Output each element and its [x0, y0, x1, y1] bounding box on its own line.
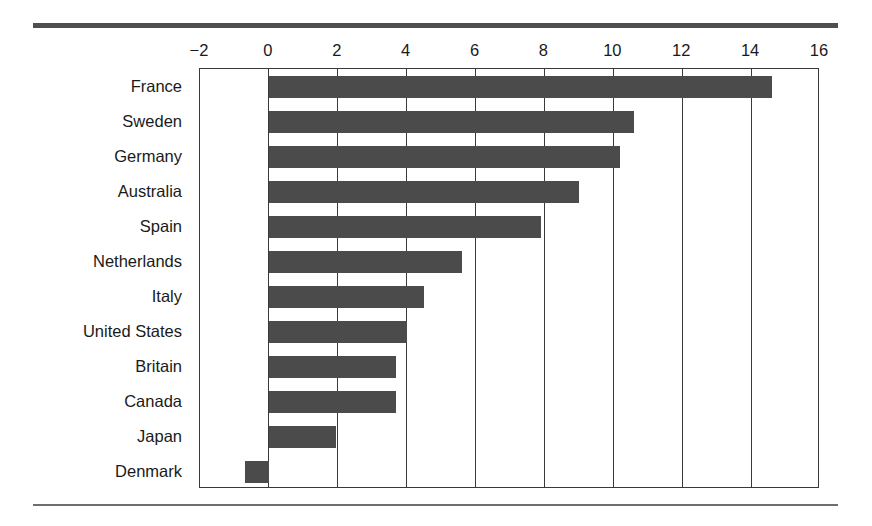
- bar: [269, 111, 634, 133]
- y-tick-label: Italy: [152, 285, 182, 307]
- x-tick-label: 8: [539, 38, 548, 62]
- y-tick-label: Britain: [135, 355, 182, 377]
- x-tick-label: 2: [332, 38, 341, 62]
- x-tick-label: 4: [401, 38, 410, 62]
- bar: [269, 181, 579, 203]
- bars-layer: [200, 69, 818, 487]
- y-tick-label: Australia: [118, 180, 182, 202]
- bar: [269, 426, 336, 448]
- bar: [245, 461, 269, 483]
- x-tick-label: 6: [470, 38, 479, 62]
- x-tick-label: 16: [810, 38, 828, 62]
- x-axis-tick-labels: −20246810121416: [199, 38, 819, 62]
- y-tick-label: Japan: [137, 425, 182, 447]
- y-tick-label: Germany: [114, 145, 182, 167]
- bar: [269, 391, 396, 413]
- x-tick-label: −2: [190, 38, 209, 62]
- bar: [269, 321, 407, 343]
- bar: [269, 146, 620, 168]
- bar: [269, 286, 424, 308]
- bar: [269, 76, 772, 98]
- bar: [269, 251, 462, 273]
- y-tick-label: Sweden: [122, 110, 182, 132]
- y-tick-label: United States: [83, 320, 182, 342]
- plot-area: [199, 68, 819, 488]
- y-tick-label: Denmark: [115, 460, 182, 482]
- y-tick-label: Netherlands: [93, 250, 182, 272]
- bar-chart-figure: −20246810121416 FranceSwedenGermanyAustr…: [0, 0, 872, 526]
- bar: [269, 216, 541, 238]
- x-tick-label: 0: [263, 38, 272, 62]
- x-tick-label: 12: [672, 38, 690, 62]
- bar: [269, 356, 396, 378]
- y-axis-category-labels: FranceSwedenGermanyAustraliaSpainNetherl…: [0, 68, 190, 488]
- x-tick-label: 14: [741, 38, 759, 62]
- y-tick-label: Canada: [124, 390, 182, 412]
- y-tick-label: France: [131, 75, 182, 97]
- x-tick-label: 10: [603, 38, 621, 62]
- y-tick-label: Spain: [140, 215, 182, 237]
- bottom-divider-rule: [33, 504, 838, 506]
